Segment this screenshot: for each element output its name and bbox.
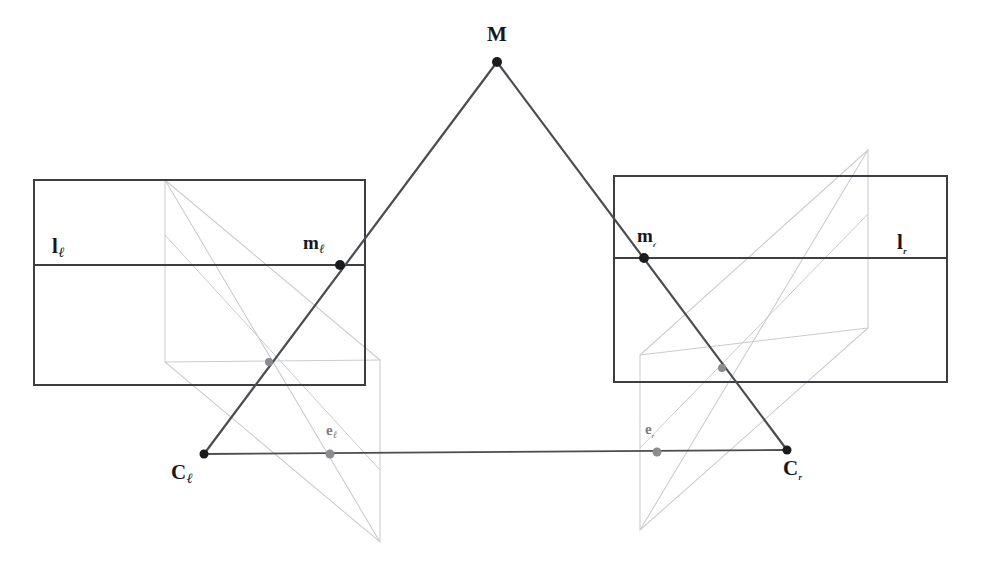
label-left-epipole-base: e bbox=[326, 422, 333, 438]
label-scene-point-M: M bbox=[487, 24, 507, 45]
right-plane-diagonal-a bbox=[640, 150, 868, 530]
label-left-epipolar-line-sub: ℓ bbox=[58, 244, 64, 260]
figure-root: M lℓ lᵣ mℓ mᵣ Cℓ Cᵣ eℓ eᵣ bbox=[0, 0, 982, 567]
gray-points-group bbox=[265, 358, 726, 459]
label-left-epipolar-line: lℓ bbox=[52, 236, 64, 257]
label-left-epipolar-line-base: l bbox=[52, 234, 58, 258]
epipolar-lines-group bbox=[34, 258, 947, 265]
right-epipole-point bbox=[653, 448, 662, 457]
epipolar-plane-group bbox=[165, 150, 868, 542]
image-planes-group bbox=[34, 176, 947, 385]
right-camera-center-point bbox=[783, 446, 792, 455]
label-left-camera-center: Cℓ bbox=[171, 462, 192, 483]
label-scene-point-M-base: M bbox=[487, 22, 507, 46]
right-plane-chord-a bbox=[640, 214, 868, 448]
label-right-epipolar-line-base: l bbox=[897, 230, 903, 254]
label-left-image-point: mℓ bbox=[303, 233, 324, 252]
label-right-epipolar-line: lᵣ bbox=[897, 232, 906, 253]
label-left-image-point-base: m bbox=[303, 232, 319, 253]
label-left-camera-center-sub: ℓ bbox=[187, 470, 193, 486]
label-right-epipole-base: e bbox=[645, 421, 652, 437]
left-camera-center-point bbox=[200, 450, 209, 459]
scene-point-M bbox=[492, 57, 502, 67]
label-right-camera-center-sub: ᵣ bbox=[799, 466, 802, 482]
label-left-epipole-sub: ℓ bbox=[333, 429, 337, 440]
label-right-camera-center: Cᵣ bbox=[783, 458, 801, 479]
left-image-point-m bbox=[335, 260, 345, 270]
right-image-plane-rect bbox=[614, 176, 947, 382]
baseline bbox=[204, 450, 787, 454]
ray-scene-point-to-left-center bbox=[204, 62, 497, 454]
right-epipolar-plane bbox=[640, 150, 868, 530]
left-plane-ray-intersection-point bbox=[265, 358, 273, 366]
label-left-epipole: eℓ bbox=[326, 423, 337, 438]
label-right-camera-center-base: C bbox=[783, 456, 798, 480]
label-right-image-point-sub: ᵣ bbox=[653, 234, 656, 249]
label-right-epipolar-line-sub: ᵣ bbox=[903, 240, 906, 256]
right-plane-ray-intersection-point bbox=[718, 364, 726, 372]
epipolar-geometry-diagram bbox=[0, 0, 982, 567]
right-plane-diagonal-b bbox=[640, 328, 868, 355]
left-image-plane-rect bbox=[34, 180, 365, 385]
label-right-image-point-base: m bbox=[637, 225, 653, 246]
right-image-point-m bbox=[639, 253, 649, 263]
left-epipole-point bbox=[326, 450, 335, 459]
label-right-epipole: eᵣ bbox=[645, 422, 654, 437]
label-right-image-point: mᵣ bbox=[637, 226, 656, 245]
label-left-camera-center-base: C bbox=[171, 460, 186, 484]
label-left-image-point-sub: ℓ bbox=[319, 241, 325, 256]
